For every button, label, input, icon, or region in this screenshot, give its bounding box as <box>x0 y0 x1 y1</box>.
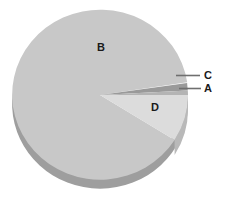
pie-chart: B D C A <box>0 0 229 211</box>
pie-label-c: C <box>204 70 212 81</box>
pie-chart-graphic <box>0 0 229 211</box>
pie-label-a: A <box>204 83 212 94</box>
pie-top-face <box>12 10 188 180</box>
pie-label-b: B <box>97 42 105 53</box>
pie-label-d: D <box>151 102 159 113</box>
